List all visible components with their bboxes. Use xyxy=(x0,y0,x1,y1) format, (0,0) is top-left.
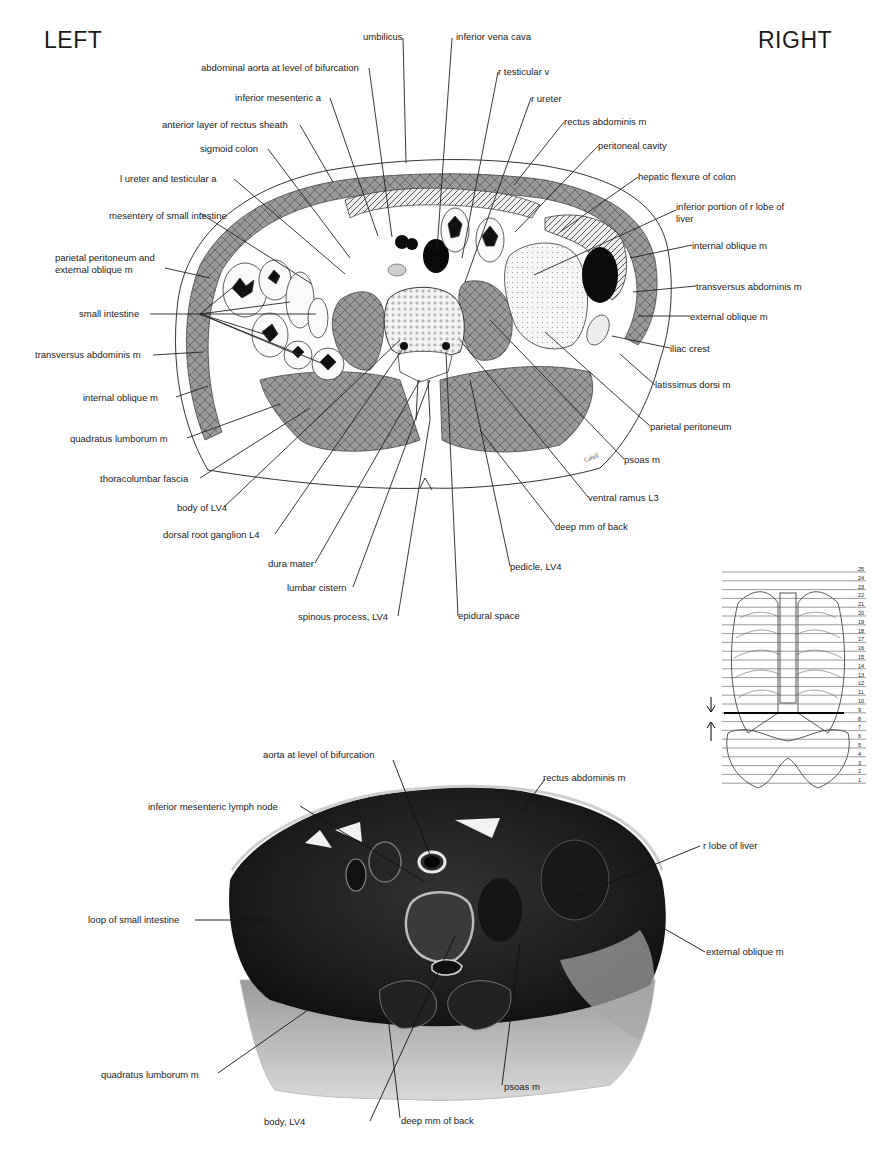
label-ext-oblique-photo: external oblique m xyxy=(706,946,784,958)
label-deep-mm: deep mm of back xyxy=(555,521,628,533)
level-number: 12 xyxy=(858,680,864,686)
label-parietal-ext: parietal peritoneum and external oblique… xyxy=(55,252,175,276)
label-ventral-ramus: ventral ramus L3 xyxy=(588,492,659,504)
level-number: 14 xyxy=(858,663,864,669)
label-r-testicular-v: r testicular v xyxy=(498,66,549,78)
level-number: 18 xyxy=(858,628,864,634)
label-sigmoid: sigmoid colon xyxy=(200,143,258,155)
label-thoracolumbar: thoracolumbar fascia xyxy=(100,473,188,485)
label-pedicle: pedicle, LV4 xyxy=(510,561,562,573)
label-body-lv4-photo: body, LV4 xyxy=(264,1116,305,1128)
level-number: 22 xyxy=(858,592,864,598)
label-r-lobe-liver: r lobe of liver xyxy=(703,840,757,852)
label-quadratus-photo: quadratus lumborum m xyxy=(101,1069,199,1081)
label-int-oblique-r: internal oblique m xyxy=(692,240,767,252)
level-number: 21 xyxy=(858,601,864,607)
label-body-lv4: body of LV4 xyxy=(177,502,227,514)
level-number: 10 xyxy=(858,698,864,704)
label-loop-small-int: loop of small intestine xyxy=(88,914,179,926)
level-number: 17 xyxy=(858,636,864,642)
label-aorta: abdominal aorta at level of bifurcation xyxy=(201,62,359,74)
label-rectus-abd: rectus abdominis m xyxy=(564,116,646,128)
label-inf-liver: inferior portion of r lobe of liver xyxy=(676,201,796,225)
label-ant-rectus: anterior layer of rectus sheath xyxy=(162,119,288,131)
label-epidural: epidural space xyxy=(458,610,520,622)
label-aorta-bif: aorta at level of bifurcation xyxy=(263,749,374,761)
label-ivc: inferior vena cava xyxy=(456,31,531,43)
label-hepatic-flexure: hepatic flexure of colon xyxy=(638,171,736,183)
level-number: 15 xyxy=(858,654,864,660)
level-number: 19 xyxy=(858,619,864,625)
cross-section-photograph xyxy=(0,731,880,1151)
label-quadratus: quadratus lumborum m xyxy=(70,433,168,445)
arrow-down-icon xyxy=(707,697,715,712)
level-number: 7 xyxy=(858,724,861,730)
label-umbilicus: umbilicus xyxy=(363,31,403,43)
label-transversus-r: transversus abdominis m xyxy=(696,281,802,293)
label-spinous: spinous process, LV4 xyxy=(298,611,388,623)
label-dura: dura mater xyxy=(268,558,314,570)
label-iliac-crest: iliac crest xyxy=(670,343,710,355)
level-number: 24 xyxy=(858,575,864,581)
label-psoas: psoas m xyxy=(624,454,660,466)
label-parietal-r: parietal peritoneum xyxy=(650,421,731,433)
level-number: 11 xyxy=(858,689,864,695)
level-number: 8 xyxy=(858,716,861,722)
label-peritoneal-cavity: peritoneal cavity xyxy=(598,140,667,152)
label-inf-mes-a: inferior mesenteric a xyxy=(235,92,321,104)
label-small-int: small intestine xyxy=(79,308,139,320)
label-r-ureter: r ureter xyxy=(531,93,562,105)
level-number: 13 xyxy=(858,672,864,678)
label-mesentery: mesentery of small intestine xyxy=(109,210,229,222)
label-l-ureter: l ureter and testicular a xyxy=(120,173,217,185)
label-transversus-l: transversus abdominis m xyxy=(35,349,141,361)
level-number: 25 xyxy=(858,566,864,572)
level-number: 16 xyxy=(858,645,864,651)
label-ext-oblique-r: external oblique m xyxy=(690,311,768,323)
label-drg: dorsal root ganglion L4 xyxy=(163,529,260,541)
label-deep-mm-photo: deep mm of back xyxy=(401,1115,474,1127)
level-number: 20 xyxy=(858,610,864,616)
label-int-oblique-l: internal oblique m xyxy=(83,392,158,404)
label-psoas-photo: psoas m xyxy=(504,1081,540,1093)
label-lumbar-cistern: lumbar cistern xyxy=(287,582,347,594)
label-latissimus: latissimus dorsi m xyxy=(655,379,731,391)
level-number: 23 xyxy=(858,584,864,590)
label-imln: inferior mesenteric lymph node xyxy=(148,801,278,813)
level-number: 9 xyxy=(858,707,861,713)
label-rectus-photo: rectus abdominis m xyxy=(543,772,625,784)
